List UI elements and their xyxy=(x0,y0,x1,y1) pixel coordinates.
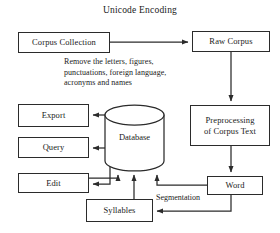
node-preprocessing-label-line1: Preprocessing xyxy=(206,115,255,126)
node-word-label: Word xyxy=(225,180,244,191)
node-raw-corpus-label: Raw Corpus xyxy=(209,36,252,47)
remove-note-line1: Remove the letters, figures, xyxy=(64,57,204,68)
node-preprocessing[interactable]: Preprocessing of Corpus Text xyxy=(190,105,270,146)
edge-edit-to-database xyxy=(89,175,118,178)
remove-note-line3: acronyms and names xyxy=(64,78,204,89)
node-query-label: Query xyxy=(43,142,65,153)
node-edit-label: Edit xyxy=(46,178,61,189)
node-raw-corpus[interactable]: Raw Corpus xyxy=(192,31,270,52)
database-label: Database xyxy=(105,132,164,143)
node-corpus-collection-label: Corpus Collection xyxy=(32,37,96,48)
remove-note: Remove the letters, figures, punctuation… xyxy=(64,57,204,89)
remove-note-line2: punctuations, foreign language, xyxy=(64,68,204,79)
edge-word-to-database xyxy=(157,175,207,185)
node-edit[interactable]: Edit xyxy=(18,173,89,193)
node-corpus-collection[interactable]: Corpus Collection xyxy=(18,32,110,53)
database-node[interactable]: Database xyxy=(105,105,164,171)
node-word[interactable]: Word xyxy=(207,176,263,195)
flowchart-canvas: Unicode Encoding xyxy=(0,0,280,233)
segmentation-label: Segmentation xyxy=(155,193,201,203)
node-preprocessing-label-line2: of Corpus Text xyxy=(204,126,256,137)
node-query[interactable]: Query xyxy=(18,137,89,158)
node-syllables[interactable]: Syllables xyxy=(86,199,153,222)
node-export[interactable]: Export xyxy=(18,104,89,127)
node-export-label: Export xyxy=(42,110,66,121)
node-syllables-label: Syllables xyxy=(103,205,135,216)
